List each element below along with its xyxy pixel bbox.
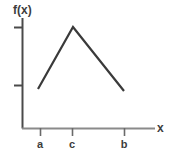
x-axis-label: x [157,122,164,134]
x-tick-label-b: b [121,139,128,150]
x-tick-label-a: a [37,139,43,150]
x-tick-label-c: c [69,139,75,150]
figure-container: f(x) x a c b [0,0,170,154]
function-curve [38,27,124,91]
plot-canvas [0,0,170,154]
y-axis-label: f(x) [13,4,32,16]
